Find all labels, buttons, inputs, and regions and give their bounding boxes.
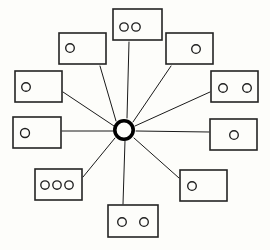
node-top[interactable] xyxy=(113,9,162,40)
diagram-canvas xyxy=(0,0,270,250)
node-left-middle[interactable] xyxy=(13,117,61,148)
node-bottom-right-rect[interactable] xyxy=(180,170,227,201)
node-top-left[interactable] xyxy=(59,33,106,64)
spoke-bottom-right xyxy=(134,138,179,178)
hub-spoke-diagram xyxy=(0,0,270,250)
spoke-top-left xyxy=(100,66,116,121)
hub-layer xyxy=(115,121,133,139)
node-bottom-left[interactable] xyxy=(35,169,82,200)
central-hub-icon[interactable] xyxy=(115,121,133,139)
node-left-upper[interactable] xyxy=(15,71,62,102)
node-bottom-rect[interactable] xyxy=(108,205,158,237)
spoke-bottom-left xyxy=(83,138,115,177)
node-bottom-left-rect[interactable] xyxy=(35,169,82,200)
spoke-bottom xyxy=(123,141,125,204)
node-top-right-rect[interactable] xyxy=(166,33,213,64)
spoke-top-right xyxy=(133,66,171,122)
node-bottom-right[interactable] xyxy=(180,170,227,201)
spoke-left-upper xyxy=(63,92,114,126)
spoke-right-upper xyxy=(135,92,210,126)
node-bottom[interactable] xyxy=(108,205,158,237)
node-top-right[interactable] xyxy=(166,33,213,64)
node-right-upper[interactable] xyxy=(211,71,258,102)
node-right-middle[interactable] xyxy=(210,119,257,150)
nodes-layer xyxy=(13,9,258,237)
spoke-right-middle xyxy=(136,131,209,132)
node-right-middle-rect[interactable] xyxy=(210,119,257,150)
spoke-top xyxy=(127,42,129,118)
